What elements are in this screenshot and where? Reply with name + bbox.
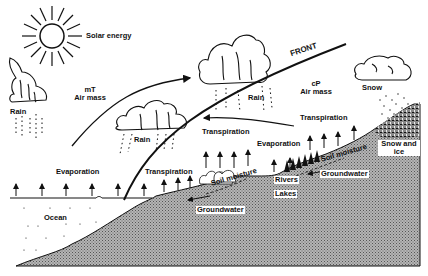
- snow-and-ice-label: Snow and ice: [378, 140, 420, 156]
- evaporation-label-land: Evaporation: [257, 140, 300, 148]
- sun-icon: [22, 6, 82, 66]
- ocean-surface: [10, 197, 152, 199]
- rain-label-left: Rain: [10, 108, 26, 116]
- snow-label: Snow: [362, 84, 382, 92]
- groundwater-label-right: Groundwater: [320, 170, 369, 178]
- evaporation-label-ocean: Evaporation: [56, 168, 99, 176]
- cloud-icon: [116, 101, 187, 130]
- solar-energy-label: Solar energy: [86, 32, 131, 40]
- cloud-icon: [9, 58, 46, 102]
- snow-and-ice-line2: ice: [379, 148, 419, 156]
- cP-air-mass-text: Air mass: [296, 88, 336, 96]
- rain-icon: [16, 114, 42, 138]
- rain-label-upper: Rain: [248, 94, 264, 102]
- lakes-label: Lakes: [274, 190, 297, 198]
- cloud-icon: [355, 56, 411, 80]
- rain-label-center: Rain: [134, 136, 150, 144]
- groundwater-label-left: Groundwater: [196, 206, 245, 214]
- cP-flow-arrow: [204, 117, 294, 126]
- transpiration-label-upper: Transpiration: [300, 114, 348, 122]
- transpiration-label-lower: Transpiration: [145, 168, 193, 176]
- ocean-label: Ocean: [44, 214, 67, 222]
- rivers-label: Rivers: [274, 176, 299, 184]
- snow-ice-patch: [375, 102, 420, 139]
- cP-air-mass-label: cP Air mass: [296, 80, 336, 96]
- mT-air-mass-text: Air mass: [70, 94, 110, 102]
- hydrologic-cycle-diagram: [0, 0, 428, 276]
- cloud-icon: [199, 35, 271, 84]
- transpiration-label-mid: Transpiration: [202, 128, 250, 136]
- mT-air-mass-label: mT Air mass: [70, 86, 110, 102]
